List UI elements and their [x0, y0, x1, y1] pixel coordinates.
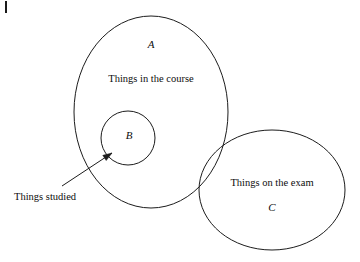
set-a-description-label: Things in the course — [108, 73, 194, 84]
diagram-canvas: A Things in the course B Things on the e… — [0, 0, 360, 262]
set-a-symbol-label: A — [147, 38, 155, 50]
set-c-outline — [199, 130, 345, 250]
set-c-symbol-label: C — [268, 201, 276, 213]
set-c-description-label: Things on the exam — [230, 177, 313, 188]
things-studied-arrowhead-icon — [103, 153, 112, 161]
euler-diagram: A Things in the course B Things on the e… — [0, 0, 360, 262]
things-studied-label: Things studied — [14, 191, 77, 202]
set-b-symbol-label: B — [126, 129, 133, 141]
